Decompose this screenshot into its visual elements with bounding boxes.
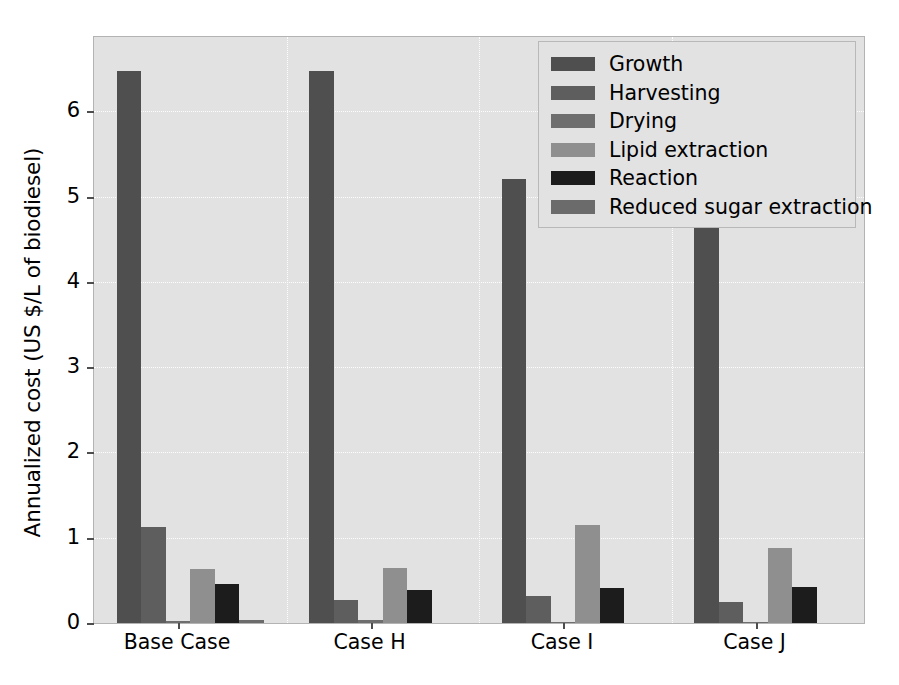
bar-chart-figure: Annualized cost (US $/L of biodiesel) 01… — [0, 0, 899, 685]
legend-swatch-growth — [551, 57, 595, 71]
bar-lipid-extraction-base-case — [190, 569, 215, 623]
x-tick-label-case-i: Case I — [531, 630, 594, 654]
bar-reaction-base-case — [215, 584, 240, 623]
legend-item-reaction[interactable]: Reaction — [551, 164, 845, 193]
gridline-x-2 — [479, 37, 480, 623]
legend-label: Harvesting — [609, 81, 721, 105]
legend-swatch-reaction — [551, 171, 595, 185]
legend-swatch-reduced-sugar-extraction — [551, 200, 595, 214]
bar-harvesting-case-h — [334, 600, 359, 623]
legend-item-reduced-sugar-extraction[interactable]: Reduced sugar extraction — [551, 193, 845, 222]
legend-label: Reaction — [609, 166, 698, 190]
bar-growth-case-j — [694, 181, 719, 623]
y-tick-label-0: 0 — [48, 610, 80, 634]
bar-reaction-case-i — [600, 588, 625, 623]
bar-drying-case-h — [358, 620, 383, 623]
bar-lipid-extraction-case-j — [768, 548, 793, 623]
bar-reduced-sugar-extraction-base-case — [239, 620, 264, 623]
y-tick-label-6: 6 — [48, 98, 80, 122]
y-tick-0 — [87, 623, 94, 625]
legend-label: Growth — [609, 52, 683, 76]
y-tick-2 — [87, 452, 94, 454]
legend-swatch-drying — [551, 114, 595, 128]
y-axis-title: Annualized cost (US $/L of biodiesel) — [14, 0, 50, 685]
y-tick-1 — [87, 538, 94, 540]
x-tick-2 — [563, 623, 565, 629]
gridline-x-1 — [287, 37, 288, 623]
bar-growth-case-i — [502, 179, 527, 623]
bar-drying-case-j — [743, 622, 768, 624]
bar-harvesting-case-j — [719, 602, 744, 623]
y-tick-label-1: 1 — [48, 525, 80, 549]
legend[interactable]: GrowthHarvestingDryingLipid extractionRe… — [538, 41, 856, 228]
x-tick-label-case-j: Case J — [723, 630, 786, 654]
bar-reaction-case-h — [407, 590, 432, 623]
bar-growth-base-case — [117, 71, 142, 623]
bar-harvesting-base-case — [141, 527, 166, 623]
y-tick-label-5: 5 — [48, 184, 80, 208]
legend-swatch-harvesting — [551, 86, 595, 100]
bar-harvesting-case-i — [526, 596, 551, 623]
legend-swatch-lipid-extraction — [551, 143, 595, 157]
bar-lipid-extraction-case-i — [575, 525, 600, 623]
legend-item-drying[interactable]: Drying — [551, 107, 845, 136]
legend-item-harvesting[interactable]: Harvesting — [551, 79, 845, 108]
x-tick-3 — [756, 623, 758, 629]
y-tick-label-2: 2 — [48, 439, 80, 463]
bar-drying-case-i — [551, 622, 576, 624]
legend-label: Lipid extraction — [609, 138, 768, 162]
legend-label: Reduced sugar extraction — [609, 195, 873, 219]
bar-drying-base-case — [166, 621, 191, 623]
legend-label: Drying — [609, 109, 677, 133]
bar-growth-case-h — [309, 71, 334, 623]
x-tick-1 — [371, 623, 373, 629]
bar-reaction-case-j — [792, 587, 817, 623]
y-tick-label-4: 4 — [48, 269, 80, 293]
legend-item-growth[interactable]: Growth — [551, 50, 845, 79]
x-tick-label-case-h: Case H — [333, 630, 405, 654]
x-tick-0 — [178, 623, 180, 629]
y-tick-4 — [87, 282, 94, 284]
bar-lipid-extraction-case-h — [383, 568, 408, 623]
y-tick-5 — [87, 197, 94, 199]
y-tick-3 — [87, 367, 94, 369]
legend-item-lipid-extraction[interactable]: Lipid extraction — [551, 136, 845, 165]
y-tick-label-3: 3 — [48, 354, 80, 378]
y-tick-6 — [87, 111, 94, 113]
x-tick-label-base-case: Base Case — [124, 630, 231, 654]
